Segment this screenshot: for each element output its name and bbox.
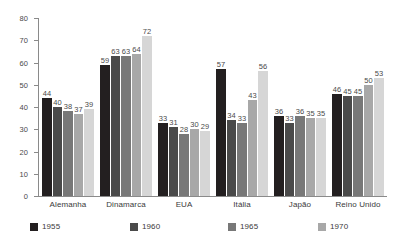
bar-value-label: 30	[190, 121, 198, 129]
bar-group-bars: 5963636472	[97, 18, 155, 196]
bar-value-label: 40	[53, 99, 61, 107]
bar: 38	[63, 111, 73, 196]
legend-swatch-icon	[30, 223, 38, 231]
legend-swatch-icon	[130, 223, 138, 231]
y-axis-tick-label: 80	[19, 14, 28, 23]
bar-value-label: 53	[375, 70, 383, 78]
legend-swatch-icon	[228, 223, 236, 231]
bar-value-label: 57	[217, 61, 225, 69]
bar-value-label: 33	[159, 115, 167, 123]
bar: 40	[53, 107, 63, 196]
bar-chart: 01020304050607080 4440383739Alemanha5963…	[0, 0, 397, 247]
legend-label: 1970	[330, 222, 348, 231]
bar: 53	[374, 78, 384, 196]
x-axis-category-label: Reino Unido	[335, 200, 380, 209]
plot-area: 01020304050607080 4440383739Alemanha5963…	[38, 18, 387, 196]
bar-value-label: 63	[111, 48, 119, 56]
bar-group-bars: 4645455053	[329, 18, 387, 196]
legend-item[interactable]: 1955	[30, 222, 60, 231]
y-axis-tick-label: 10	[19, 169, 28, 178]
bar: 35	[306, 118, 316, 196]
bar-value-label: 46	[333, 86, 341, 94]
bar-group-bars: 5734334356	[213, 18, 271, 196]
y-axis-tick: 10	[34, 174, 38, 175]
bar-value-label: 45	[354, 88, 362, 96]
legend-item[interactable]: 1960	[130, 222, 160, 231]
x-axis-category-label: Dinamarca	[106, 200, 146, 209]
bar-group-bars: 3633363535	[271, 18, 329, 196]
y-axis-tick: 20	[34, 152, 38, 153]
y-axis-tick: 70	[34, 40, 38, 41]
x-axis-category-label: EUA	[176, 200, 193, 209]
bar: 39	[84, 109, 94, 196]
bar-value-label: 63	[122, 48, 130, 56]
bar: 45	[353, 96, 363, 196]
bar-value-label: 45	[343, 88, 351, 96]
bar-value-label: 33	[238, 115, 246, 123]
bar: 50	[364, 85, 374, 196]
bar-value-label: 35	[317, 110, 325, 118]
bar: 33	[285, 123, 295, 196]
bar: 63	[111, 56, 121, 196]
bar: 33	[158, 123, 168, 196]
y-axis-tick-label: 60	[19, 58, 28, 67]
bar: 33	[237, 123, 247, 196]
bar-value-label: 72	[143, 28, 151, 36]
x-axis-category-label: Alemanha	[50, 200, 87, 209]
bar: 56	[258, 71, 268, 196]
bar-value-label: 34	[227, 112, 235, 120]
bar-value-label: 59	[101, 57, 109, 65]
bar-group-bars: 4440383739	[39, 18, 97, 196]
bar-groups: 4440383739Alemanha5963636472Dinamarca333…	[39, 18, 387, 196]
bar: 63	[121, 56, 131, 196]
bar-value-label: 43	[248, 92, 256, 100]
bar: 35	[316, 118, 326, 196]
bar: 57	[216, 69, 226, 196]
legend-swatch-icon	[318, 223, 326, 231]
y-axis-tick-label: 50	[19, 80, 28, 89]
y-axis-tick: 50	[34, 85, 38, 86]
y-axis-tick: 30	[34, 129, 38, 130]
bar-value-label: 44	[43, 90, 51, 98]
legend-label: 1965	[240, 222, 258, 231]
bar-value-label: 36	[275, 108, 283, 116]
bar-value-label: 29	[201, 123, 209, 131]
x-axis-category-label: Japão	[289, 200, 311, 209]
bar-group: 5734334356Itália	[213, 18, 271, 196]
legend-item[interactable]: 1965	[228, 222, 258, 231]
bar-value-label: 33	[285, 115, 293, 123]
bar-group: 3331283029EUA	[155, 18, 213, 196]
bar: 43	[248, 100, 258, 196]
bar-value-label: 56	[259, 63, 267, 71]
bar: 34	[227, 120, 237, 196]
bar: 64	[132, 54, 142, 196]
bar: 29	[200, 131, 210, 196]
bar-value-label: 39	[85, 101, 93, 109]
bar: 28	[179, 134, 189, 196]
bar-value-label: 50	[364, 77, 372, 85]
bar-value-label: 31	[169, 119, 177, 127]
bar-group: 4440383739Alemanha	[39, 18, 97, 196]
bar: 72	[142, 36, 152, 196]
y-axis-tick-label: 30	[19, 125, 28, 134]
y-axis-tick-label: 20	[19, 147, 28, 156]
y-axis-tick-label: 70	[19, 36, 28, 45]
y-axis-tick: 60	[34, 63, 38, 64]
legend-item[interactable]: 1970	[318, 222, 348, 231]
bar-value-label: 28	[180, 126, 188, 134]
y-axis-tick-label: 0	[24, 192, 28, 201]
legend-label: 1955	[42, 222, 60, 231]
bar-value-label: 37	[74, 106, 82, 114]
bar-group: 5963636472Dinamarca	[97, 18, 155, 196]
bar-group: 4645455053Reino Unido	[329, 18, 387, 196]
bar: 37	[74, 114, 84, 196]
bar-value-label: 64	[132, 46, 140, 54]
bar: 46	[332, 94, 342, 196]
bar-value-label: 35	[306, 110, 314, 118]
y-axis-tick: 80	[34, 18, 38, 19]
bar: 45	[343, 96, 353, 196]
bar: 31	[169, 127, 179, 196]
bar-value-label: 36	[296, 108, 304, 116]
legend-label: 1960	[142, 222, 160, 231]
bar-group-bars: 3331283029	[155, 18, 213, 196]
